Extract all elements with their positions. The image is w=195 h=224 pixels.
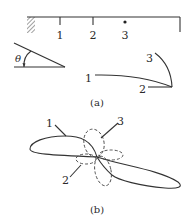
- fixed-wall-support: [27, 17, 35, 33]
- pattern-3-lower-lobe: [92, 155, 114, 188]
- caption-b: (b): [90, 204, 104, 215]
- pattern-1-right-lobe: [97, 157, 180, 188]
- node-3-dot: [123, 20, 126, 23]
- pattern-label-2: 2: [62, 174, 69, 187]
- pattern-label-3: 3: [117, 115, 124, 128]
- beam-node-label-3: 3: [122, 29, 129, 42]
- diagram-canvas: 1 2 3 θ 1 2 3 (a) 1 2 3 (b): [0, 0, 195, 224]
- mode-label-3: 3: [146, 52, 153, 65]
- angle-arrow-icon: [23, 63, 26, 67]
- leader-2: [70, 165, 81, 177]
- beam-node-label-2: 2: [90, 29, 97, 42]
- pattern-2-left-lobe: [76, 154, 96, 164]
- leader-1: [55, 125, 66, 136]
- leader-3: [101, 123, 118, 138]
- theta-label: θ: [15, 53, 21, 64]
- beam-node-label-1: 1: [57, 29, 64, 42]
- angle-slant-line: [14, 43, 65, 67]
- pattern-label-1: 1: [46, 117, 53, 130]
- caption-a: (a): [90, 97, 104, 108]
- pattern-2-right-lobe: [99, 150, 123, 160]
- mode-label-1: 1: [85, 72, 92, 85]
- figure-b: 1 2 3 (b): [30, 115, 180, 215]
- mode-label-2: 2: [139, 83, 146, 96]
- figure-a: 1 2 3 θ 1 2 3 (a): [14, 17, 180, 108]
- mode-curve-1: [95, 75, 172, 87]
